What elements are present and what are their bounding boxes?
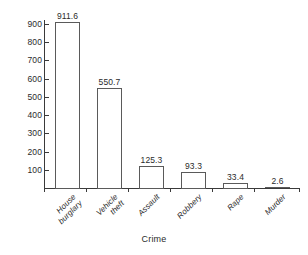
value-label-robbery: 93.3: [173, 162, 214, 171]
bar-murder: [265, 187, 290, 189]
y-axis-tick-label: 600: [2, 75, 42, 84]
x-axis-category-label-rape: Rape: [205, 193, 246, 234]
y-axis-tick-label: 700: [2, 56, 42, 65]
category-label-line1: Murder: [263, 192, 288, 217]
x-axis-line: [44, 188, 300, 189]
x-axis-tick: [86, 188, 87, 192]
bar-house-burglary: [55, 22, 80, 189]
value-label-house-burglary: 911.6: [47, 12, 88, 21]
bar-robbery: [181, 172, 206, 189]
y-axis-tick: [44, 133, 49, 134]
y-axis-tick-label: 800: [2, 38, 42, 47]
y-axis-tick-label: 300: [2, 129, 42, 138]
y-axis-tick-label: 100: [2, 166, 42, 175]
plot-area: 900 800 700 600 500 400 300 200 100 911.: [0, 0, 308, 255]
y-axis-tick: [44, 24, 49, 25]
x-axis-tick: [254, 188, 255, 192]
y-axis-tick: [44, 60, 49, 61]
category-label-line1: Assault: [136, 192, 161, 217]
value-label-assault: 125.3: [131, 156, 172, 165]
category-label-line1: Robbery: [175, 192, 203, 220]
x-axis-tick: [44, 188, 45, 192]
y-axis-tick: [44, 79, 49, 80]
value-label-rape: 33.4: [215, 173, 256, 182]
category-label-line1: Rape: [225, 192, 245, 212]
value-label-murder: 2.6: [257, 177, 298, 186]
y-axis-tick: [44, 170, 49, 171]
x-axis-tick: [299, 188, 300, 192]
x-axis-title: Crime: [0, 234, 308, 244]
y-axis-line: [44, 20, 45, 189]
x-axis-category-label-robbery: Robbery: [163, 193, 204, 234]
x-axis-tick: [128, 188, 129, 192]
x-axis-tick: [170, 188, 171, 192]
y-axis-tick-label: 200: [2, 148, 42, 157]
y-axis-tick-label: 900: [2, 20, 42, 29]
x-axis-category-label-assault: Assault: [121, 193, 162, 234]
y-axis-tick: [44, 97, 49, 98]
y-axis-tick-label: 500: [2, 93, 42, 102]
y-axis-tick: [44, 152, 49, 153]
value-label-vehicle-theft: 550.7: [89, 78, 130, 87]
y-axis-tick: [44, 115, 49, 116]
x-axis-tick: [212, 188, 213, 192]
bar-rape: [223, 183, 248, 189]
bar-vehicle-theft: [97, 88, 122, 189]
y-axis-tick: [44, 42, 49, 43]
bar-assault: [139, 166, 164, 189]
y-axis-tick-label: 400: [2, 111, 42, 120]
bar-chart: 900 800 700 600 500 400 300 200 100 911.: [0, 0, 308, 255]
x-axis-category-label-murder: Murder: [247, 193, 288, 234]
